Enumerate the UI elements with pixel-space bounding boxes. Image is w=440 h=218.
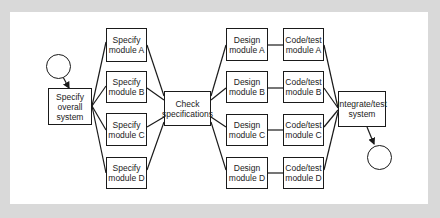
node-design-module-a: Design module A: [226, 28, 268, 61]
node-specify-module-c: Specify module C: [106, 113, 147, 146]
node-integrate-test-system: Integrate/test system: [338, 91, 386, 127]
node-design-module-b: Design module B: [226, 71, 268, 103]
node-specify-overall-system: Specify overall system: [48, 88, 92, 125]
node-code-test-module-c: Code/test module C: [283, 114, 324, 146]
node-code-test-module-a: Code/test module A: [283, 28, 324, 61]
node-design-module-c: Design module C: [226, 114, 268, 146]
node-specify-module-b: Specify module B: [106, 71, 147, 103]
node-design-module-d: Design module D: [226, 157, 268, 189]
end-node: [367, 145, 392, 170]
node-check-specifications: Check specifications: [164, 91, 211, 126]
node-code-test-module-d: Code/test module D: [283, 157, 324, 189]
start-node: [46, 54, 71, 79]
node-specify-module-d: Specify module D: [106, 157, 147, 189]
node-specify-module-a: Specify module A: [106, 28, 147, 62]
node-code-test-module-b: Code/test module B: [283, 71, 324, 103]
